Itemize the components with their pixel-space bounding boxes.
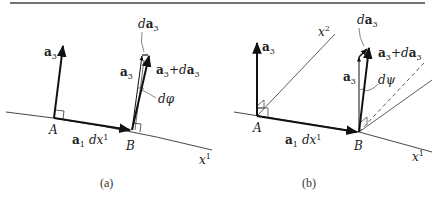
- dphi-leader: [142, 90, 156, 98]
- right-angle-mark-A: [257, 100, 264, 108]
- da3-leader: [141, 32, 144, 52]
- axis-x1-label: x1: [412, 149, 424, 164]
- da3-leader: [359, 28, 364, 46]
- label-a3-at-A: a3: [44, 45, 57, 61]
- label-dpsi: dψ: [378, 73, 396, 87]
- label-a3-at-A: a3: [262, 40, 275, 56]
- label-a3-at-B: a3: [120, 65, 133, 81]
- a1dx1-vector: [54, 118, 130, 130]
- label-a1dx1: a1dx1: [72, 133, 108, 149]
- right-angle-mark-B: [361, 117, 367, 125]
- axis-x1-label: x1: [199, 152, 211, 167]
- point-B-label: B: [125, 139, 135, 153]
- label-a3-plus-da3: a3+da3: [156, 63, 200, 79]
- x1-curve: [6, 112, 212, 150]
- axis-x2-label: x2: [318, 24, 330, 39]
- dpsi-arc: [360, 89, 364, 90]
- label-a3-plus-da3: a3+da3: [378, 46, 422, 62]
- a1dx1-vector: [257, 116, 357, 132]
- label-da3: da3: [357, 13, 378, 29]
- caption-b: (b): [302, 176, 316, 190]
- figure-canvas: a3 da3 a3 a3+da3 dφ A B a1dx1 x1 (a): [0, 0, 442, 199]
- point-A-label: A: [252, 121, 262, 135]
- label-da3: da3: [138, 17, 159, 33]
- caption-a: (a): [100, 176, 113, 190]
- panel-a: a3 da3 a3 a3+da3 dφ A B a1dx1 x1 (a): [6, 17, 212, 190]
- da3-vector: [359, 49, 367, 57]
- label-dphi: dφ: [158, 92, 175, 106]
- label-a1dx1: a1dx1: [285, 133, 321, 149]
- point-A-label: A: [48, 123, 58, 137]
- label-a3-at-B: a3: [343, 70, 356, 86]
- panel-b: a3 x2 da3 a3 a3+da3 dψ A B a1dx1 x1 (b): [234, 13, 432, 190]
- tangent-line: [359, 80, 432, 132]
- point-B-label: B: [353, 139, 363, 153]
